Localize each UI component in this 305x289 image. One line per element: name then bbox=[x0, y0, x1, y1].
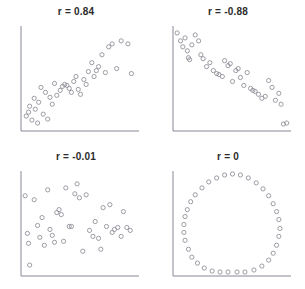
data-point bbox=[218, 270, 222, 274]
data-point bbox=[39, 85, 43, 89]
data-point bbox=[183, 238, 187, 242]
data-point bbox=[208, 61, 212, 65]
data-point bbox=[94, 68, 98, 72]
data-point bbox=[37, 100, 41, 104]
data-point bbox=[24, 114, 28, 118]
plot-axes bbox=[173, 171, 291, 276]
data-point bbox=[220, 74, 224, 78]
data-point bbox=[42, 243, 46, 247]
data-point bbox=[199, 53, 203, 57]
data-point bbox=[75, 182, 79, 186]
data-point bbox=[46, 117, 50, 121]
data-point bbox=[215, 176, 219, 180]
scatter-plot-canvas bbox=[152, 0, 304, 144]
data-point bbox=[84, 82, 88, 86]
data-point bbox=[230, 172, 234, 176]
data-point bbox=[26, 241, 30, 245]
data-point bbox=[96, 236, 100, 240]
data-point bbox=[84, 193, 88, 197]
data-point bbox=[48, 95, 52, 99]
data-point bbox=[50, 102, 54, 106]
data-point bbox=[93, 219, 97, 223]
data-point bbox=[270, 85, 274, 89]
data-point-group bbox=[24, 39, 133, 125]
data-point bbox=[185, 49, 189, 53]
data-point bbox=[243, 270, 247, 274]
data-point bbox=[61, 239, 65, 243]
data-point-group bbox=[175, 31, 289, 126]
data-point-group bbox=[182, 172, 282, 274]
data-point bbox=[108, 203, 112, 207]
data-point bbox=[175, 31, 179, 35]
data-point bbox=[222, 173, 226, 177]
data-point bbox=[119, 39, 123, 43]
data-point bbox=[245, 70, 249, 74]
data-point bbox=[201, 57, 205, 61]
data-point bbox=[104, 224, 108, 228]
data-point bbox=[183, 36, 187, 40]
data-point bbox=[30, 118, 34, 122]
scatter-panel-r-minus-088: r = -0.88 bbox=[152, 0, 304, 144]
data-point bbox=[238, 173, 242, 177]
data-point bbox=[57, 208, 61, 212]
data-point bbox=[86, 69, 90, 73]
data-point bbox=[277, 234, 281, 238]
data-point bbox=[52, 240, 56, 244]
data-point bbox=[238, 75, 242, 79]
data-point bbox=[126, 42, 130, 46]
data-point bbox=[246, 176, 250, 180]
data-point bbox=[81, 249, 85, 253]
data-point bbox=[38, 235, 42, 239]
data-point bbox=[263, 94, 267, 98]
data-point bbox=[26, 110, 30, 114]
data-point bbox=[115, 67, 119, 71]
data-point bbox=[59, 212, 63, 216]
data-point bbox=[210, 269, 214, 273]
data-point bbox=[92, 74, 96, 78]
data-point bbox=[76, 87, 80, 91]
data-point bbox=[277, 91, 281, 95]
data-point bbox=[101, 206, 105, 210]
data-point bbox=[23, 194, 27, 198]
data-point bbox=[254, 181, 258, 185]
data-point bbox=[193, 193, 197, 197]
scatter-plot-figure: r = 0.84 r = -0.88 r = -0.01 bbox=[0, 0, 305, 289]
data-point bbox=[35, 223, 39, 227]
data-point bbox=[128, 228, 132, 232]
data-point bbox=[207, 180, 211, 184]
data-point bbox=[28, 104, 32, 108]
data-point bbox=[267, 194, 271, 198]
data-point bbox=[267, 78, 271, 82]
data-point bbox=[77, 196, 81, 200]
data-point bbox=[273, 98, 277, 102]
data-point bbox=[72, 79, 76, 83]
data-point bbox=[178, 39, 182, 43]
data-point bbox=[48, 227, 52, 231]
data-point bbox=[129, 71, 133, 75]
data-point bbox=[50, 233, 54, 237]
scatter-plot-canvas bbox=[152, 145, 304, 289]
data-point bbox=[52, 81, 56, 85]
scatter-panel-r-zero: r = 0 bbox=[152, 145, 304, 289]
data-point bbox=[40, 215, 44, 219]
data-point bbox=[274, 210, 278, 214]
data-point bbox=[99, 247, 103, 251]
data-point bbox=[46, 188, 50, 192]
scatter-panel-r-minus-001: r = -0.01 bbox=[0, 145, 152, 289]
data-point bbox=[28, 263, 32, 267]
data-point bbox=[73, 192, 77, 196]
data-point bbox=[274, 243, 278, 247]
data-point bbox=[260, 264, 264, 268]
data-point bbox=[116, 225, 120, 229]
data-point bbox=[267, 258, 271, 262]
data-point bbox=[182, 222, 186, 226]
data-point bbox=[278, 226, 282, 230]
data-point bbox=[186, 247, 190, 251]
data-point bbox=[256, 92, 260, 96]
data-point bbox=[182, 230, 186, 234]
scatter-plot-canvas bbox=[0, 0, 152, 144]
data-point bbox=[87, 228, 91, 232]
data-point bbox=[204, 65, 208, 69]
data-point bbox=[25, 231, 29, 235]
data-point bbox=[55, 93, 59, 97]
